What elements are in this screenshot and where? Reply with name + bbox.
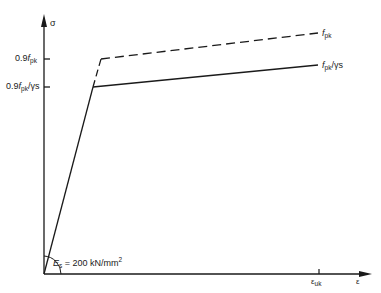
y-tick-label-0.9fpk: 0.9fpk [15, 54, 37, 65]
elastic-branch-line [44, 87, 93, 274]
characteristic-elastic-dashed-line [93, 59, 101, 87]
x-axis-label: ε [356, 278, 360, 286]
stress-strain-diagram [0, 0, 381, 293]
y-axis-label: σ [50, 19, 56, 28]
characteristic-curve-label: fpk [322, 29, 331, 40]
design-curve-label: fpk/γs [322, 61, 343, 72]
x-axis-arrow-icon [359, 271, 372, 277]
y-axis-arrow-icon [41, 14, 47, 27]
modulus-label: Es = 200 kN/mm2 [53, 257, 122, 270]
design-curve-solid-line [93, 65, 318, 87]
y-tick-label-0.9fpk-gamma: 0.9fpk/γs [6, 82, 39, 93]
x-tick-label-euk: εuk [311, 278, 321, 288]
characteristic-curve-dashed-line [101, 33, 318, 59]
